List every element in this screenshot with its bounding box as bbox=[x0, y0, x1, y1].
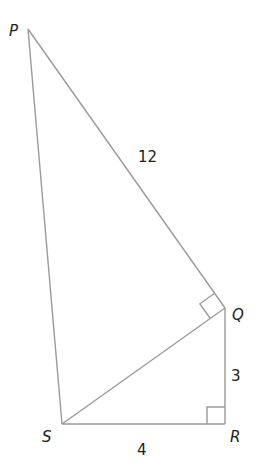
vertex-label-r: R bbox=[230, 428, 240, 446]
right-angle-marker-q bbox=[200, 293, 215, 318]
right-angle-marker-r bbox=[207, 407, 225, 424]
edge-ps bbox=[28, 29, 62, 424]
edge-label-pq: 12 bbox=[138, 148, 157, 166]
edge-label-qr: 3 bbox=[231, 367, 241, 385]
edge-pq bbox=[28, 29, 225, 308]
edge-label-sr: 4 bbox=[137, 441, 147, 459]
vertex-label-q: Q bbox=[232, 306, 244, 324]
vertex-label-s: S bbox=[42, 428, 52, 446]
vertex-label-p: P bbox=[9, 22, 19, 40]
edge-sq bbox=[62, 308, 225, 424]
right-triangles-diagram: P Q R S 12 3 4 bbox=[0, 0, 261, 475]
